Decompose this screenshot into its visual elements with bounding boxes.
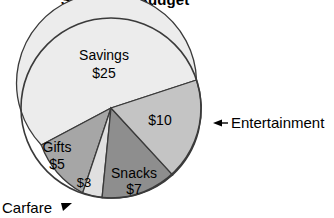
slice-label-savings-value: $25 [92, 65, 116, 81]
callout-label-carfare: Carfare [2, 199, 52, 216]
up-right-arrow-icon [61, 203, 72, 211]
slice-label-snacks-name: Snacks [111, 165, 157, 181]
pie-chart-svg: Savings $25 $10 Snacks $7 $3 Gifts $5 En… [0, 0, 334, 218]
slice-label-gifts-value: $5 [49, 156, 65, 172]
pie-chart-figure: Serenity's Budget Savings $25 $10 Snacks… [0, 0, 334, 218]
slice-label-savings-name: Savings [79, 47, 129, 63]
slice-label-gifts-name: Gifts [43, 139, 72, 155]
callout-entertainment: Entertainment [213, 114, 325, 131]
left-arrow-icon [213, 120, 222, 127]
slice-label-snacks-value: $7 [126, 181, 142, 197]
slice-label-carfare-value: $3 [77, 175, 91, 190]
slice-label-entertainment-value: $10 [148, 112, 172, 128]
pie-slices [17, 0, 202, 198]
callout-carfare: Carfare [2, 199, 72, 216]
callout-label-entertainment: Entertainment [231, 114, 325, 131]
